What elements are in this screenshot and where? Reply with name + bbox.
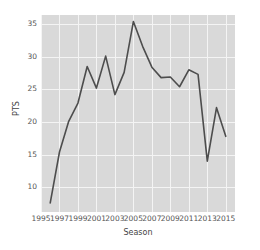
x-tick-label: 2015 <box>216 215 235 223</box>
x-tick-label: 1995 <box>31 215 50 223</box>
x-tick-label: 2011 <box>179 215 198 223</box>
chart-figure: 101520253035 199519971999200120032005200… <box>0 0 260 250</box>
x-tick-label: 2009 <box>161 215 180 223</box>
x-axis-label: Season <box>41 228 235 237</box>
y-tick-label: 30 <box>3 53 37 61</box>
plot-area <box>41 15 235 212</box>
x-tick-label: 1999 <box>68 215 87 223</box>
data-line <box>50 22 226 203</box>
y-axis-label: PTS <box>12 79 21 139</box>
x-tick-label: 2013 <box>198 215 217 223</box>
line-series <box>41 15 235 212</box>
x-tick-label: 1997 <box>50 215 69 223</box>
y-tick-label: 15 <box>3 151 37 159</box>
x-tick-label: 2007 <box>142 215 161 223</box>
x-tick-label: 2003 <box>105 215 124 223</box>
x-tick-label: 2001 <box>87 215 106 223</box>
x-tick-label: 2005 <box>124 215 143 223</box>
y-tick-label: 10 <box>3 183 37 191</box>
x-axis-ticks: 1995199719992001200320052007200920112013… <box>41 213 235 227</box>
y-tick-label: 35 <box>3 20 37 28</box>
